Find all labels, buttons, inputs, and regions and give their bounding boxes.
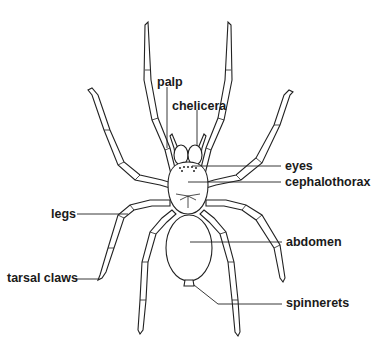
leg-third-left [98,200,170,280]
label-eyes: eyes [285,160,313,173]
label-palp: palp [157,76,183,89]
spinnerets-shape [184,280,194,286]
label-tarsal-claws: tarsal claws [7,272,78,285]
label-cephalothorax: cephalothorax [285,176,370,189]
label-spinnerets: spinnerets [286,297,349,310]
spider-anatomy-diagram: palp chelicera eyes cephalothorax legs a… [0,0,376,345]
label-chelicera: chelicera [172,100,226,113]
label-abdomen: abdomen [286,236,342,249]
abdomen-shape [166,215,212,281]
leg-third-right [206,200,285,282]
label-legs: legs [51,208,76,221]
spider-illustration [0,0,376,345]
